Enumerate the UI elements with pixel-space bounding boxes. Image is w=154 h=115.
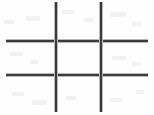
scan-artifact [12,92,24,96]
scan-artifact [84,18,93,22]
scan-artifact [132,22,142,26]
grid-line-vertical-left [55,2,57,112]
scan-artifact [110,12,126,17]
scan-artifact [66,96,76,100]
scan-artifact [4,20,14,24]
grid-line-vertical-right [100,2,102,112]
scan-artifact [62,10,74,14]
scan-artifact [132,62,141,66]
scan-artifact [30,60,38,64]
scan-artifact [26,16,40,21]
scan-artifact [136,90,144,94]
grid-line-horizontal-bottom [6,74,148,76]
grid-line-horizontal-top [6,40,148,42]
scan-artifact [112,56,126,60]
scan-artifact [110,98,123,102]
scan-artifact [10,52,23,56]
diagram-canvas: Tic-Tac-Toe Grid Hand-drawn hash / tic-t… [0,0,154,115]
scan-artifact [32,100,47,105]
